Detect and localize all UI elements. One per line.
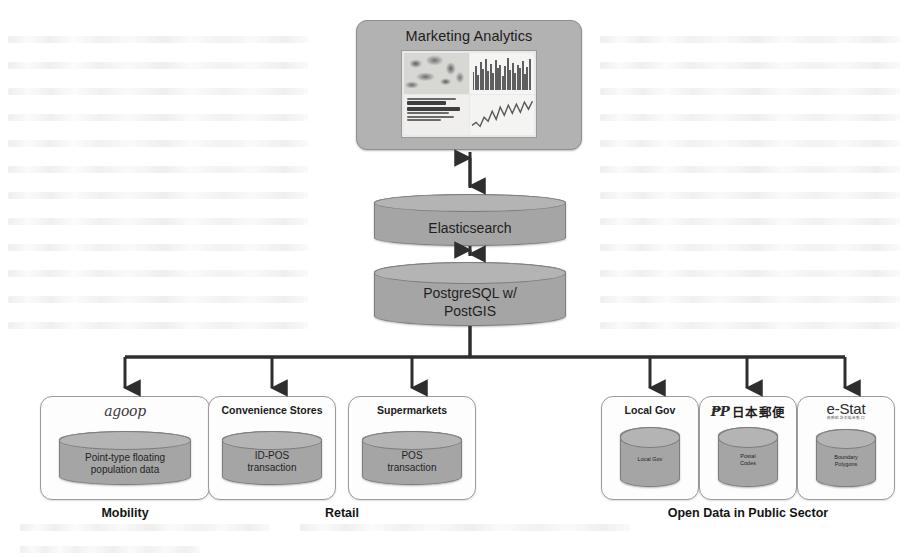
japan-post-logo-mark: ₱P bbox=[711, 404, 729, 419]
e-stat-data-cylinder: Boundary Polygons bbox=[816, 429, 876, 487]
local-gov-data-label: Local Gov bbox=[621, 428, 679, 486]
local-gov-data-cylinder: Local Gov bbox=[620, 427, 680, 487]
convenience-stores-data-label: ID-POS transaction bbox=[223, 432, 321, 484]
source-box-e-stat[interactable]: e-Stat 政府統計の総合窓口 Boundary Polygons bbox=[797, 396, 895, 500]
convenience-stores-data-cylinder: ID-POS transaction bbox=[222, 431, 322, 485]
japan-post-data-cylinder: Postal Codes bbox=[718, 427, 778, 487]
source-box-japan-post[interactable]: ₱P 日本郵便 Postal Codes bbox=[699, 396, 797, 500]
e-stat-logo-text: e-Stat bbox=[827, 401, 866, 416]
postgresql-postgis-label: PostgreSQL w/ PostGIS bbox=[375, 263, 565, 325]
group-caption-retail: Retail bbox=[208, 506, 476, 520]
japan-post-logo-text: 日本郵便 bbox=[732, 402, 786, 421]
japan-post-logo: ₱P 日本郵便 bbox=[700, 402, 796, 420]
japan-post-data-label: Postal Codes bbox=[719, 428, 777, 486]
group-caption-mobility: Mobility bbox=[40, 506, 210, 520]
thumbnail-map-panel bbox=[404, 53, 469, 94]
agoop-logo: agoop bbox=[41, 402, 209, 420]
thumbnail-bar-chart-panel bbox=[470, 53, 535, 94]
elasticsearch-label: Elasticsearch bbox=[375, 195, 565, 245]
agoop-data-label: Point-type floating population data bbox=[60, 432, 190, 484]
e-stat-logo: e-Stat 政府統計の総合窓口 bbox=[798, 402, 894, 420]
source-box-convenience-stores[interactable]: Convenience Stores ID-POS transaction bbox=[208, 396, 336, 500]
convenience-stores-header: Convenience Stores bbox=[209, 404, 335, 416]
e-stat-logo-subtitle: 政府統計の総合窓口 bbox=[827, 417, 865, 421]
source-box-agoop[interactable]: agoop Point-type floating population dat… bbox=[40, 396, 210, 500]
dashboard-thumbnail bbox=[401, 50, 537, 138]
thumbnail-line-chart-panel bbox=[470, 95, 535, 136]
postgresql-postgis-store[interactable]: PostgreSQL w/ PostGIS bbox=[374, 262, 566, 326]
thumbnail-text-report-panel bbox=[404, 95, 469, 136]
agoop-data-cylinder: Point-type floating population data bbox=[59, 431, 191, 485]
group-caption-open-data: Open Data in Public Sector bbox=[601, 506, 895, 520]
marketing-analytics-title: Marketing Analytics bbox=[406, 28, 533, 44]
local-gov-header: Local Gov bbox=[602, 404, 698, 416]
supermarkets-data-cylinder: POS transaction bbox=[362, 431, 462, 485]
source-box-local-gov[interactable]: Local Gov Local Gov bbox=[601, 396, 699, 500]
architecture-diagram: Marketing Analytics bbox=[0, 0, 910, 557]
e-stat-data-label: Boundary Polygons bbox=[817, 430, 875, 486]
marketing-analytics-node[interactable]: Marketing Analytics bbox=[356, 20, 582, 150]
supermarkets-data-label: POS transaction bbox=[363, 432, 461, 484]
supermarkets-header: Supermarkets bbox=[349, 404, 475, 416]
source-box-supermarkets[interactable]: Supermarkets POS transaction bbox=[348, 396, 476, 500]
elasticsearch-store[interactable]: Elasticsearch bbox=[374, 194, 566, 246]
